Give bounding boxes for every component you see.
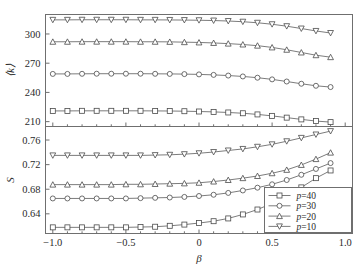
data-point-marker bbox=[313, 166, 318, 171]
data-point-marker bbox=[211, 219, 216, 224]
data-point-marker bbox=[50, 225, 55, 230]
data-point-marker bbox=[109, 108, 114, 113]
data-point-marker bbox=[123, 108, 128, 113]
data-point-marker bbox=[255, 185, 260, 190]
data-point-marker bbox=[313, 176, 318, 181]
figure-container: 210240270300⟨k⟩0.640.680.720.76−1.0−0.50… bbox=[0, 0, 364, 273]
data-point-marker bbox=[240, 111, 245, 116]
data-point-marker bbox=[298, 162, 304, 167]
data-point-marker bbox=[211, 109, 216, 114]
y-tick-label: 0.68 bbox=[22, 184, 40, 195]
legend: p=40p=30p=20p=10 bbox=[265, 188, 352, 233]
panel-top: 210240270300⟨k⟩ bbox=[4, 15, 353, 128]
data-point-marker bbox=[153, 108, 158, 113]
legend-marker bbox=[277, 193, 282, 198]
y-axis-label: S bbox=[4, 177, 16, 183]
data-point-marker bbox=[109, 71, 114, 76]
y-axis-label: ⟨k⟩ bbox=[4, 63, 16, 77]
data-point-marker bbox=[270, 113, 275, 118]
data-point-marker bbox=[270, 182, 275, 187]
data-point-marker bbox=[153, 224, 158, 229]
y-tick-label: 270 bbox=[25, 58, 41, 69]
data-point-marker bbox=[240, 188, 245, 193]
data-point-marker bbox=[80, 71, 85, 76]
legend-marker bbox=[277, 203, 282, 208]
data-point-marker bbox=[313, 119, 318, 124]
data-point-marker bbox=[109, 196, 114, 201]
series-line bbox=[53, 20, 331, 33]
data-point-marker bbox=[328, 85, 333, 90]
data-point-marker bbox=[123, 71, 128, 76]
x-axis-label: β bbox=[195, 252, 202, 264]
data-point-marker bbox=[138, 225, 143, 230]
data-point-marker bbox=[284, 79, 289, 84]
data-point-marker bbox=[328, 168, 333, 173]
y-tick-label: 0.76 bbox=[22, 135, 40, 146]
data-point-marker bbox=[255, 112, 260, 117]
data-point-marker bbox=[197, 72, 202, 77]
data-point-marker bbox=[50, 71, 55, 76]
data-point-marker bbox=[182, 109, 187, 114]
data-point-marker bbox=[299, 117, 304, 122]
data-point-marker bbox=[65, 71, 70, 76]
data-point-marker bbox=[80, 225, 85, 230]
data-point-marker bbox=[182, 72, 187, 77]
legend-label: p=20 bbox=[296, 212, 317, 222]
data-point-marker bbox=[109, 225, 114, 230]
data-point-marker bbox=[226, 110, 231, 115]
data-point-marker bbox=[197, 193, 202, 198]
data-point-marker bbox=[255, 75, 260, 80]
legend-label: p=30 bbox=[296, 201, 317, 211]
series-line bbox=[53, 131, 331, 155]
data-point-marker bbox=[138, 196, 143, 201]
data-point-marker bbox=[328, 150, 334, 155]
data-point-marker bbox=[138, 71, 143, 76]
data-point-marker bbox=[123, 196, 128, 201]
y-tick-label: 240 bbox=[25, 87, 41, 98]
legend-label: p=40 bbox=[296, 191, 317, 201]
x-tick-label: −0.5 bbox=[116, 237, 135, 248]
data-point-marker bbox=[94, 71, 99, 76]
y-tick-label: 0.64 bbox=[22, 208, 41, 219]
data-point-marker bbox=[65, 196, 70, 201]
data-point-marker bbox=[182, 194, 187, 199]
data-point-marker bbox=[167, 223, 172, 228]
data-point-marker bbox=[313, 83, 318, 88]
data-point-marker bbox=[226, 73, 231, 78]
y-tick-label: 0.72 bbox=[22, 159, 40, 170]
x-tick-label: 0 bbox=[196, 237, 201, 248]
data-point-marker bbox=[167, 109, 172, 114]
data-point-marker bbox=[226, 190, 231, 195]
series-p40 bbox=[50, 108, 333, 124]
data-point-marker bbox=[65, 108, 70, 113]
data-point-marker bbox=[80, 108, 85, 113]
series-p10 bbox=[50, 17, 334, 36]
x-tick-label: 0.5 bbox=[266, 237, 279, 248]
series-p10 bbox=[50, 129, 334, 159]
data-point-marker bbox=[167, 195, 172, 200]
y-tick-label: 300 bbox=[25, 29, 41, 40]
data-point-marker bbox=[255, 207, 260, 212]
data-point-marker bbox=[182, 222, 187, 227]
data-point-marker bbox=[284, 178, 289, 183]
y-tick-label: 210 bbox=[25, 116, 41, 127]
data-point-marker bbox=[153, 195, 158, 200]
data-point-marker bbox=[138, 108, 143, 113]
x-tick-label: −1.0 bbox=[43, 237, 62, 248]
series-p20 bbox=[50, 39, 334, 60]
data-point-marker bbox=[270, 77, 275, 82]
data-point-marker bbox=[167, 71, 172, 76]
data-point-marker bbox=[284, 167, 290, 172]
data-point-marker bbox=[299, 81, 304, 86]
data-point-marker bbox=[65, 225, 70, 230]
data-point-marker bbox=[94, 108, 99, 113]
data-point-marker bbox=[153, 71, 158, 76]
data-point-marker bbox=[197, 109, 202, 114]
dual-panel-line-chart: 210240270300⟨k⟩0.640.680.720.76−1.0−0.50… bbox=[0, 0, 364, 273]
data-point-marker bbox=[94, 225, 99, 230]
data-point-marker bbox=[94, 196, 99, 201]
data-point-marker bbox=[123, 225, 128, 230]
data-point-marker bbox=[328, 161, 333, 166]
x-tick-label: 1.0 bbox=[339, 237, 352, 248]
data-point-marker bbox=[50, 108, 55, 113]
